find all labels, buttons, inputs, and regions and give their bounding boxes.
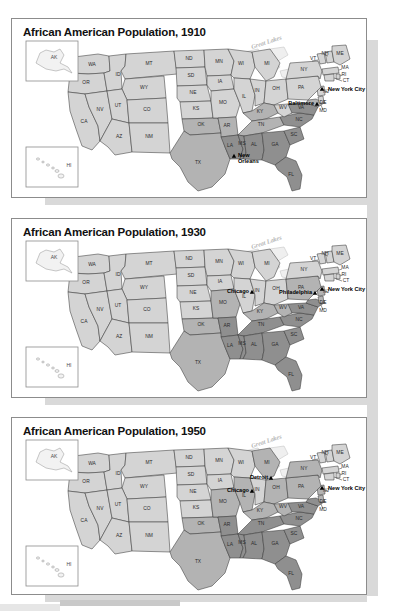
state-label-wv: WV [279,105,288,110]
state-label-co: CO [143,107,151,112]
state-label-mt: MT [145,460,152,465]
state-label-la: LA [227,542,234,547]
state-label-tx: TX [195,360,202,365]
state-label-sd: SD [188,472,195,477]
state-label-de: DE [320,300,328,305]
state-label-wy: WY [140,484,149,489]
state-label-ok: OK [197,122,205,127]
state-label-nm: NM [145,533,153,538]
state-label-ky: KY [257,109,264,114]
great-lakes-label: Great Lakes [250,432,283,449]
state-label-az: AZ [116,533,122,538]
state-label-al: AL [251,342,257,347]
state-label-md: MD [319,507,327,512]
state-label-nc: NC [295,117,303,122]
state-label-tn: TN [258,521,265,526]
state-label-ma: MA [341,65,349,70]
state-label-ky: KY [257,309,264,314]
state-label-de: DE [320,499,328,504]
state-label-ri: RI [342,471,347,476]
state-label-ca: CA [81,518,89,523]
city-label: New York City [328,286,366,292]
great-lakes-label: Great Lakes [250,33,283,50]
city-label: Philadelphia [279,289,313,295]
state-label-me: ME [336,450,344,455]
state-label-vt: VT [310,56,316,61]
city-label: Baltimore [288,100,314,106]
state-label-al: AL [251,541,257,546]
state-label-ri: RI [342,72,347,77]
state-label-me: ME [336,251,344,256]
state-label-ms: MS [238,341,246,346]
state-label-pa: PA [298,484,305,489]
city-label: Chicago [227,487,250,493]
state-label-fl: FL [288,571,294,576]
us-choropleth-map: Great LakesWAORIDMTWYNDSDNEMNIAWIMINVUTC… [12,418,367,595]
state-label-ia: IA [218,79,223,84]
state-label-ut: UT [115,303,122,308]
state-label-ga: GA [271,142,279,147]
state-label-ia: IA [218,478,223,483]
state-label-la: LA [227,143,234,148]
state-label-ak: AK [51,254,58,260]
state-label-fl: FL [288,372,294,377]
state-label-ar: AR [224,323,231,328]
state-label-nh: NH [321,51,329,56]
state-ct [324,274,334,281]
state-label-az: AZ [116,134,122,139]
state-label-id: ID [116,272,121,277]
state-label-az: AZ [116,334,122,339]
state-label-il: IL [242,294,246,299]
state-label-nc: NC [295,317,303,322]
state-label-hi: HI [67,162,72,168]
state-label-ia: IA [218,279,223,284]
state-label-nm: NM [145,134,153,139]
state-label-mo: MO [219,300,227,305]
page-shadow-band-right [367,40,378,596]
state-label-or: OR [82,479,90,484]
state-label-md: MD [319,308,327,313]
state-label-vt: VT [310,256,316,261]
state-label-mt: MT [145,61,152,66]
state-oh [264,478,288,504]
hawaii-island-shape [55,569,59,572]
state-ct [324,473,334,480]
state-label-nv: NV [97,307,105,312]
state-label-mn: MN [215,458,223,463]
hawaii-island-shape [55,370,59,373]
state-label-ct: CT [343,477,350,482]
state-label-ok: OK [197,322,205,327]
city-label: New York City [328,86,366,92]
state-label-mi: MI [264,61,269,66]
state-label-or: OR [82,80,90,85]
hawaii-island-shape [46,164,49,166]
state-label-ne: NE [190,90,198,95]
map-series-page: African American Population, 1910 Great … [0,0,395,611]
state-label-nh: NH [321,251,329,256]
state-label-va: VA [298,504,305,509]
state-label-ks: KS [193,306,200,311]
hawaii-island-shape [36,158,39,160]
hawaii-island-shape [52,367,55,369]
state-label-tn: TN [258,122,265,127]
city-label: Chicago [227,288,250,294]
state-ri [336,74,340,79]
state-label-hi: HI [67,561,72,567]
state-ct [324,74,334,81]
state-label-ny: NY [301,267,309,272]
state-label-ms: MS [238,141,246,146]
state-label-ct: CT [343,278,350,283]
state-label-id: ID [116,72,121,77]
state-label-hi: HI [67,362,72,368]
hawaii-island-shape [55,170,59,173]
map-canvas: Great LakesWAORIDMTWYNDSDNEMNIAWIMINVUTC… [12,219,367,398]
state-label-md: MD [319,108,327,113]
state-label-nd: ND [185,56,193,61]
state-ri [336,274,340,279]
state-label-mn: MN [215,259,223,264]
state-label-wy: WY [140,285,149,290]
map-canvas: Great LakesWAORIDMTWYNDSDNEMNIAWIMINVUTC… [12,418,367,595]
state-label-nm: NM [145,334,153,339]
state-label-ne: NE [190,489,198,494]
state-label-sc: SC [291,132,298,137]
